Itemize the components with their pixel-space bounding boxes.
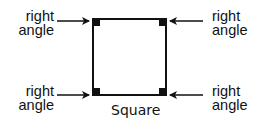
label-line: angle	[212, 23, 262, 37]
square-right-angle-diagram: right angle right angle right angle righ…	[0, 0, 270, 131]
label-line: angle	[212, 98, 262, 112]
right-angle-marker-top-left	[94, 20, 100, 26]
label-line: right	[14, 84, 54, 98]
diagram-caption: Square	[111, 103, 160, 117]
right-angle-marker-top-right	[159, 20, 165, 26]
label-line: right	[212, 9, 262, 23]
right-angle-marker-bottom-right	[159, 88, 165, 94]
label-bottom-left: right angle	[14, 84, 54, 112]
label-line: angle	[14, 98, 54, 112]
label-top-left: right angle	[14, 9, 54, 37]
label-line: right	[14, 9, 54, 23]
right-angle-marker-bottom-left	[94, 88, 100, 94]
label-line: right	[212, 84, 262, 98]
label-top-right: right angle	[212, 9, 262, 37]
square-outline	[93, 19, 166, 95]
label-bottom-right: right angle	[212, 84, 262, 112]
label-line: angle	[14, 23, 54, 37]
